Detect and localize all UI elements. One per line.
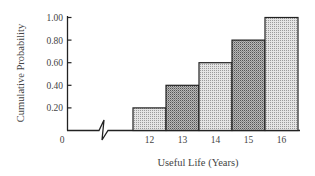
bar-14 [199,63,232,131]
x-tick-label: 16 [277,135,287,145]
bar-15 [232,40,265,130]
y-tick-label: 0.40 [46,81,63,91]
x-tick-label: 13 [178,135,188,145]
bar-13 [166,85,199,130]
y-tick-label: 0.20 [46,103,63,113]
y-tick-label: 1.00 [46,13,63,23]
x-origin-label: 0 [60,135,65,145]
y-axis: 1.000.800.600.400.20 [46,13,71,131]
x-tick-label: 15 [244,135,254,145]
chart: 1.000.800.600.400.20 1213141516 0 Cumula… [0,0,315,176]
x-tick-labels: 1213141516 [145,135,287,145]
y-tick-label: 0.60 [46,58,63,68]
x-tick-label: 12 [145,135,155,145]
y-axis-title: Cumulative Probability [15,23,26,122]
bar-12 [133,108,166,131]
x-axis-title: Useful Life (Years) [157,157,239,169]
bars [133,18,298,131]
x-tick-label: 14 [211,135,221,145]
y-tick-label: 0.80 [46,36,63,46]
bar-16 [265,18,298,131]
